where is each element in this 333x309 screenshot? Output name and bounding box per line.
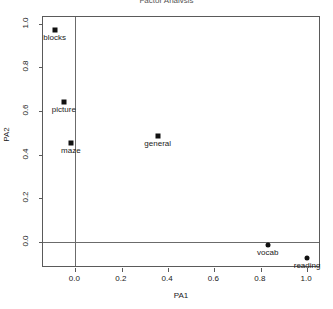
x-axis-label: PA1 <box>42 291 320 300</box>
x-axis-tick-label: 0.8 <box>254 274 265 283</box>
x-axis-tick-label: 1.0 <box>301 274 312 283</box>
y-axis-tick <box>39 67 43 68</box>
y-axis-label: PA2 <box>2 113 11 157</box>
data-point-label: general <box>144 139 171 148</box>
chart-title: Factor Analysis <box>0 0 333 3</box>
y-axis-tick-label: 0.6 <box>21 104 30 115</box>
chart-canvas: Factor Analysis PA2 PA1 blockspicturemaz… <box>0 0 333 309</box>
y-axis-tick <box>39 155 43 156</box>
x-axis-tick <box>75 268 76 272</box>
y-axis-tick <box>39 111 43 112</box>
data-point-label: blocks <box>43 33 66 42</box>
reference-line-vertical <box>75 17 76 266</box>
x-axis-tick <box>307 268 308 272</box>
y-axis-tick-label: 0.4 <box>21 148 30 159</box>
y-axis-tick <box>39 24 43 25</box>
y-axis-tick-label: 0.8 <box>21 61 30 72</box>
data-point-label: picture <box>52 105 76 114</box>
y-axis-tick <box>39 242 43 243</box>
x-axis-tick-label: 0.4 <box>162 274 173 283</box>
x-axis-tick <box>168 268 169 272</box>
reference-line-horizontal <box>43 242 319 243</box>
plot-area: blockspicturemazegeneralvocabreading <box>42 16 320 267</box>
y-axis-tick-label: 1.0 <box>21 17 30 28</box>
x-axis-tick <box>214 268 215 272</box>
y-axis-tick-label: 0.2 <box>21 192 30 203</box>
x-axis-tick-label: 0.6 <box>208 274 219 283</box>
data-point-label: vocab <box>257 248 278 257</box>
data-point-marker <box>265 243 270 248</box>
data-point-marker <box>155 133 160 138</box>
plot-inner: blockspicturemazegeneralvocabreading <box>43 17 319 266</box>
data-point-marker <box>61 100 66 105</box>
x-axis-tick <box>261 268 262 272</box>
y-axis-tick-label: 0.0 <box>21 235 30 246</box>
data-point-marker <box>68 140 73 145</box>
x-axis-tick <box>122 268 123 272</box>
data-point-label: maze <box>61 146 81 155</box>
data-point-marker <box>305 256 310 261</box>
x-axis-tick-label: 0.2 <box>115 274 126 283</box>
y-axis-tick <box>39 198 43 199</box>
x-axis-tick-label: 0.0 <box>69 274 80 283</box>
data-point-marker <box>52 28 57 33</box>
